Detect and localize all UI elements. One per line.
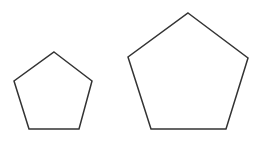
large-pentagon	[128, 13, 248, 129]
pentagons-diagram	[0, 0, 261, 144]
small-pentagon	[14, 52, 92, 129]
